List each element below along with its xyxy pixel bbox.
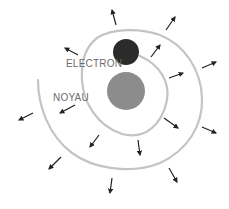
- radiation-arrow-icon: [169, 168, 177, 182]
- radiation-arrow-icon: [169, 73, 183, 78]
- radiation-arrow-icon: [19, 113, 33, 120]
- radiation-arrow-icon: [151, 45, 160, 57]
- radiation-arrow-icon: [164, 118, 178, 128]
- atom-spiral-diagram: [0, 0, 229, 209]
- radiation-arrow-icon: [65, 48, 78, 55]
- radiation-arrow-icon: [202, 127, 216, 133]
- radiation-arrow-icon: [166, 17, 175, 30]
- radiation-arrow-icon: [60, 105, 75, 113]
- radiation-arrow-icon: [112, 10, 116, 25]
- nucleus-circle: [107, 72, 145, 110]
- radiation-arrow-icon: [138, 140, 140, 155]
- radiation-arrow-icon: [90, 135, 99, 147]
- radiation-arrow-icon: [202, 62, 216, 68]
- nucleus-label: NOYAU: [53, 92, 89, 103]
- radiation-arrow-icon: [49, 157, 61, 169]
- electron-label: ELECTRON: [66, 58, 122, 69]
- radiation-arrow-icon: [110, 178, 112, 193]
